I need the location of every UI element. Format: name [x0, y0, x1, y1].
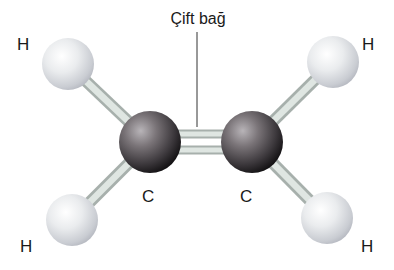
atom-label-H1: H	[17, 36, 29, 53]
atoms-layer	[42, 36, 359, 246]
hydrogen-atom-H4	[301, 192, 353, 244]
carbon-atom-C1	[119, 111, 181, 173]
atom-label-C2: C	[240, 188, 252, 205]
hydrogen-atom-H1	[42, 38, 94, 90]
hydrogen-atom-H2	[307, 36, 359, 88]
atom-label-C1: C	[142, 188, 154, 205]
ethylene-diagram: Çift bağ HHHHCC	[0, 0, 394, 270]
double-bond-label: Çift bağ	[170, 11, 225, 27]
carbon-atom-C2	[221, 111, 283, 173]
atom-label-H2: H	[362, 36, 374, 53]
atom-label-H3: H	[20, 238, 32, 255]
bonds-layer	[68, 62, 333, 220]
molecule-drawing	[0, 0, 394, 270]
hydrogen-atom-H3	[46, 194, 98, 246]
atom-label-H4: H	[361, 238, 373, 255]
